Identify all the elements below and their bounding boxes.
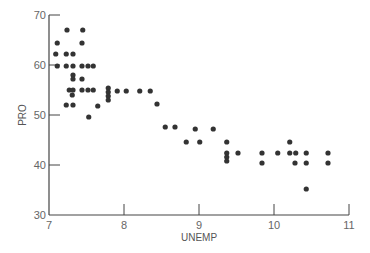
data-point	[293, 150, 298, 155]
data-point	[79, 87, 84, 92]
data-point	[85, 63, 90, 68]
data-point	[211, 126, 216, 131]
data-point	[197, 139, 202, 144]
data-point	[172, 124, 177, 129]
x-tick-label: 9	[196, 219, 202, 231]
data-point	[86, 114, 91, 119]
data-point	[80, 27, 85, 32]
data-point	[64, 51, 69, 56]
data-point	[64, 27, 69, 32]
x-tick-label: 11	[343, 219, 354, 231]
data-point	[287, 150, 292, 155]
axes	[49, 15, 349, 215]
data-point	[259, 160, 264, 165]
data-point	[304, 186, 309, 191]
y-axis-label: PRO	[17, 104, 28, 126]
data-point	[64, 102, 69, 107]
data-point	[154, 101, 159, 106]
data-point	[91, 87, 96, 92]
data-point	[70, 87, 75, 92]
data-point	[325, 150, 330, 155]
data-point	[55, 40, 60, 45]
data-point	[259, 150, 264, 155]
x-tick-label: 7	[46, 219, 52, 231]
data-point	[325, 160, 330, 165]
data-point	[148, 88, 153, 93]
data-point	[79, 63, 84, 68]
data-point	[163, 124, 168, 129]
data-point	[292, 160, 297, 165]
data-point	[64, 63, 69, 68]
x-axis-label: UNEMP	[181, 232, 217, 243]
data-point	[304, 160, 309, 165]
data-point	[287, 139, 292, 144]
data-point	[235, 150, 240, 155]
data-point	[55, 63, 60, 68]
x-tick-label: 10	[268, 219, 280, 231]
data-point	[304, 150, 309, 155]
y-tick-label: 70	[34, 9, 46, 21]
data-point	[70, 92, 75, 97]
data-point	[91, 63, 96, 68]
scatter-plot: 30405060707891011 UNEMP PRO	[0, 0, 370, 253]
data-point	[137, 88, 142, 93]
data-point	[224, 158, 229, 163]
data-point	[224, 139, 229, 144]
y-tick-label: 30	[34, 209, 46, 221]
data-point	[70, 102, 75, 107]
data-point	[70, 51, 75, 56]
data-point	[95, 103, 100, 108]
data-point	[124, 88, 129, 93]
y-tick-label: 40	[34, 159, 46, 171]
x-tick-label: 8	[121, 219, 127, 231]
data-point	[70, 76, 75, 81]
data-point	[115, 88, 120, 93]
data-point	[193, 126, 198, 131]
y-tick-label: 60	[34, 59, 46, 71]
data-point	[79, 76, 84, 81]
data-point	[184, 139, 189, 144]
data-point	[106, 97, 111, 102]
data-point	[53, 51, 58, 56]
data-point	[275, 150, 280, 155]
data-points	[53, 27, 330, 191]
data-point	[79, 40, 84, 45]
data-point	[85, 87, 90, 92]
y-tick-label: 50	[34, 109, 46, 121]
data-point	[70, 63, 75, 68]
